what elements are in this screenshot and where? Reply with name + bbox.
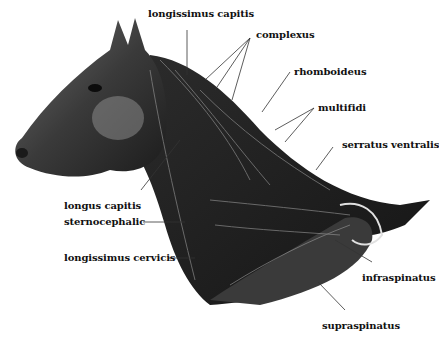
label-serratus-ventralis: serratus ventralis — [342, 139, 439, 150]
label-longus-capitis: longus capitis — [64, 200, 141, 211]
label-multifidi: multifidi — [318, 102, 366, 113]
label-longissimus-capitis: longissimus capitis — [148, 8, 254, 19]
label-longissimus-cervicis: longissimus cervicis — [64, 252, 175, 263]
head-silhouette — [15, 18, 167, 177]
label-complexus: complexus — [256, 29, 314, 40]
label-supraspinatus: supraspinatus — [322, 320, 400, 331]
label-rhomboideus: rhomboideus — [294, 66, 366, 77]
label-infraspinatus: infraspinatus — [362, 272, 436, 283]
label-sternocephalic: sternocephalic — [64, 216, 145, 227]
